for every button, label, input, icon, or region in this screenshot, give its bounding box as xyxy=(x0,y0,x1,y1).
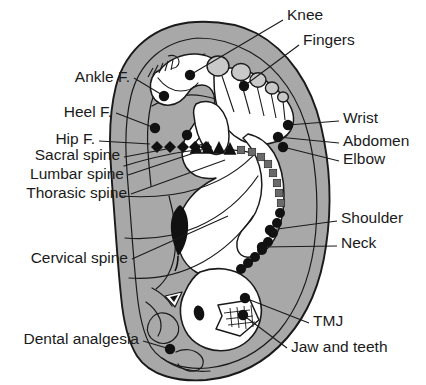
spine-marker-thorasic-1 xyxy=(237,146,244,153)
acupoint-heel-f[interactable] xyxy=(150,123,160,133)
acupoint-fingers[interactable] xyxy=(239,81,249,91)
fetal-head-group xyxy=(180,269,261,351)
acupoint-jaw-and-teeth[interactable] xyxy=(238,310,248,320)
spine-marker-cervical-1 xyxy=(275,208,285,218)
label-dental-analgesia: Dental analgesia xyxy=(24,330,140,347)
spine-marker-thorasic-5 xyxy=(269,169,276,176)
acupoint-shoulder[interactable] xyxy=(265,225,275,235)
toe-pad-5 xyxy=(278,92,289,102)
label-elbow: Elbow xyxy=(343,150,386,167)
acupoint-abdomen[interactable] xyxy=(273,132,283,142)
acupoint-wrist[interactable] xyxy=(283,120,293,130)
label-wrist: Wrist xyxy=(343,109,379,126)
acupoint-tmj[interactable] xyxy=(240,293,250,303)
label-neck: Neck xyxy=(341,234,377,251)
label-jaw-and-teeth: Jaw and teeth xyxy=(291,338,388,355)
label-sacral-spine: Sacral spine xyxy=(35,146,120,163)
label-shoulder: Shoulder xyxy=(341,209,403,226)
spine-marker-thorasic-4 xyxy=(264,160,271,167)
spine-marker-thorasic-3 xyxy=(257,153,264,160)
label-lumbar-spine: Lumbar spine xyxy=(30,165,124,182)
toe-pad-4 xyxy=(265,82,278,94)
label-cervical-spine: Cervical spine xyxy=(31,249,128,266)
acupoint-hip-f[interactable] xyxy=(182,130,192,140)
label-hip-f: Hip F. xyxy=(55,130,95,147)
auricular-ear-diagram: KneeFingersWristAbdomenElbowShoulderNeck… xyxy=(0,0,426,385)
spine-marker-thorasic-7 xyxy=(275,189,282,196)
spine-marker-thorasic-6 xyxy=(273,179,280,186)
spine-marker-thorasic-8 xyxy=(277,199,284,206)
label-ankle-f: Ankle F. xyxy=(75,68,130,85)
diagram-canvas: KneeFingersWristAbdomenElbowShoulderNeck… xyxy=(0,0,426,385)
acupoint-dental-analgesia[interactable] xyxy=(165,344,175,354)
acupoint-ankle-f[interactable] xyxy=(159,91,169,101)
acupoint-elbow[interactable] xyxy=(278,142,288,152)
label-knee: Knee xyxy=(287,6,323,23)
label-fingers: Fingers xyxy=(303,31,355,48)
label-abdomen: Abdomen xyxy=(343,132,409,149)
acupoint-knee[interactable] xyxy=(185,70,195,80)
acupoint-neck[interactable] xyxy=(257,242,267,252)
label-thorasic-spine: Thorasic spine xyxy=(26,184,127,201)
label-tmj: TMJ xyxy=(313,312,343,329)
label-heel-f: Heel F. xyxy=(64,103,112,120)
spine-marker-thorasic-2 xyxy=(248,148,255,155)
toe-pad-2 xyxy=(232,64,251,81)
